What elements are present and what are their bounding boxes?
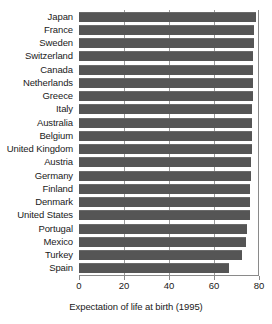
category-tick-8: Australia xyxy=(0,116,76,129)
bar-row xyxy=(79,23,258,36)
category-label: Canada xyxy=(40,65,73,75)
bar-row xyxy=(79,182,258,195)
category-label: United States xyxy=(17,210,73,220)
category-tick-13: Finland xyxy=(0,182,76,195)
bar-13 xyxy=(79,184,250,194)
bar-row xyxy=(79,63,258,76)
category-tick-10: United Kingdom xyxy=(0,143,76,156)
category-tick-7: Italy xyxy=(0,103,76,116)
category-label: Australia xyxy=(37,118,73,128)
x-tick-label: 0 xyxy=(76,280,81,291)
bar-row xyxy=(79,90,258,103)
bar-19 xyxy=(79,263,229,273)
bar-row xyxy=(79,235,258,248)
bar-9 xyxy=(79,131,252,141)
category-label: Austria xyxy=(44,157,73,167)
category-tick-5: Netherlands xyxy=(0,76,76,89)
category-label: Spain xyxy=(49,263,73,273)
plot-area xyxy=(79,10,259,275)
bar-3 xyxy=(79,51,253,61)
x-tick-label: 60 xyxy=(209,280,220,291)
bar-row xyxy=(79,209,258,222)
bar-7 xyxy=(79,104,252,114)
bar-row xyxy=(79,37,258,50)
category-tick-12: Germany xyxy=(0,169,76,182)
bar-16 xyxy=(79,224,247,234)
bar-row xyxy=(79,156,258,169)
bar-row xyxy=(79,116,258,129)
bar-4 xyxy=(79,65,253,75)
bar-18 xyxy=(79,250,242,260)
category-tick-4: Canada xyxy=(0,63,76,76)
bar-row xyxy=(79,143,258,156)
category-tick-17: Mexico xyxy=(0,235,76,248)
category-label: Switzerland xyxy=(25,51,73,61)
category-tick-11: Austria xyxy=(0,156,76,169)
category-tick-15: United States xyxy=(0,209,76,222)
category-label: Portugal xyxy=(38,224,73,234)
category-label: Greece xyxy=(42,91,73,101)
bar-17 xyxy=(79,237,246,247)
category-label: Sweden xyxy=(39,38,73,48)
value-axis: 020406080 xyxy=(79,275,259,298)
x-tick-label: 80 xyxy=(254,280,265,291)
bar-row xyxy=(79,103,258,116)
bar-row xyxy=(79,249,258,262)
category-tick-9: Belgium xyxy=(0,129,76,142)
category-label: Italy xyxy=(56,104,73,114)
bar-row xyxy=(79,10,258,23)
bar-14 xyxy=(79,197,250,207)
bar-8 xyxy=(79,118,252,128)
category-label: Finland xyxy=(43,184,73,194)
x-axis-title: Expectation of life at birth (1995) xyxy=(0,301,272,313)
bar-row xyxy=(79,196,258,209)
category-tick-14: Denmark xyxy=(0,196,76,209)
bar-11 xyxy=(79,157,251,167)
category-tick-6: Greece xyxy=(0,90,76,103)
bar-row xyxy=(79,50,258,63)
category-tick-3: Switzerland xyxy=(0,50,76,63)
x-tick-label: 20 xyxy=(119,280,130,291)
bar-10 xyxy=(79,144,252,154)
bar-row xyxy=(79,262,258,275)
bar-row xyxy=(79,169,258,182)
bar-15 xyxy=(79,210,250,220)
category-axis: JapanFranceSwedenSwitzerlandCanadaNether… xyxy=(0,10,76,275)
bar-5 xyxy=(79,78,253,88)
category-label: United Kingdom xyxy=(7,144,73,154)
category-tick-1: France xyxy=(0,23,76,36)
category-label: Netherlands xyxy=(23,78,73,88)
category-tick-16: Portugal xyxy=(0,222,76,235)
category-tick-2: Sweden xyxy=(0,37,76,50)
bar-0 xyxy=(79,12,256,22)
bar-2 xyxy=(79,38,254,48)
category-label: Germany xyxy=(35,171,73,181)
bar-row xyxy=(79,76,258,89)
bar-row xyxy=(79,129,258,142)
bar-1 xyxy=(79,25,254,35)
category-tick-19: Spain xyxy=(0,262,76,275)
x-tick-label: 40 xyxy=(164,280,175,291)
category-tick-18: Turkey xyxy=(0,249,76,262)
category-label: Mexico xyxy=(44,237,74,247)
category-label: Japan xyxy=(48,12,73,22)
bar-6 xyxy=(79,91,253,101)
life-expectancy-bar-chart: JapanFranceSwedenSwitzerlandCanadaNether… xyxy=(0,0,272,324)
category-label: Belgium xyxy=(39,131,73,141)
category-label: Turkey xyxy=(45,250,73,260)
category-tick-0: Japan xyxy=(0,10,76,23)
category-label: France xyxy=(44,25,73,35)
category-label: Denmark xyxy=(35,197,73,207)
bar-12 xyxy=(79,171,251,181)
bar-row xyxy=(79,222,258,235)
bars-layer xyxy=(79,10,258,275)
